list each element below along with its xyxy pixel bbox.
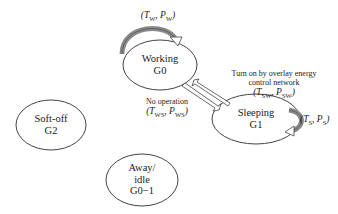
sleeping-loop-label: (TS, PS) — [300, 114, 338, 128]
state-away-code: G0−1 — [112, 185, 172, 197]
state-working-code: G0 — [133, 65, 187, 77]
state-working-label: Working G0 — [133, 53, 187, 76]
sleep-to-work-line1: Turn on by overlay energy — [210, 69, 338, 78]
work-to-sleep-params: (TWS, PWS) — [136, 106, 198, 120]
power-subscript: SW — [282, 92, 292, 99]
sleep-to-work-label: Turn on by overlay energy control networ… — [210, 69, 338, 101]
state-sleeping-name: Sleeping — [226, 107, 286, 119]
paren-close: ) — [326, 114, 329, 124]
time-subscript: SW — [262, 92, 272, 99]
working-loop-label: (TW, PW) — [126, 10, 190, 24]
paren-close: ) — [292, 87, 295, 97]
state-working-name: Working — [133, 53, 187, 65]
state-sleeping-label: Sleeping G1 — [226, 107, 286, 130]
state-away-name: Away/ — [112, 162, 172, 174]
state-away-name2: idle — [112, 174, 172, 186]
work-to-sleep-line1: No operation — [136, 97, 198, 106]
state-softoff-name: Soft-off — [21, 113, 81, 125]
paren-close: ) — [185, 106, 188, 116]
sleep-to-work-line2: control network — [210, 78, 338, 87]
state-away-label: Away/ idle G0−1 — [112, 162, 172, 197]
power-subscript: WS — [175, 111, 185, 118]
state-softoff-label: Soft-off G2 — [21, 113, 81, 136]
work-to-sleep-label: No operation (TWS, PWS) — [136, 97, 198, 120]
paren-close: ) — [172, 10, 175, 20]
state-softoff-code: G2 — [21, 125, 81, 137]
sleep-to-work-params: (TSW, PSW) — [210, 87, 338, 101]
time-subscript: WS — [155, 111, 165, 118]
state-sleeping-code: G1 — [226, 119, 286, 131]
